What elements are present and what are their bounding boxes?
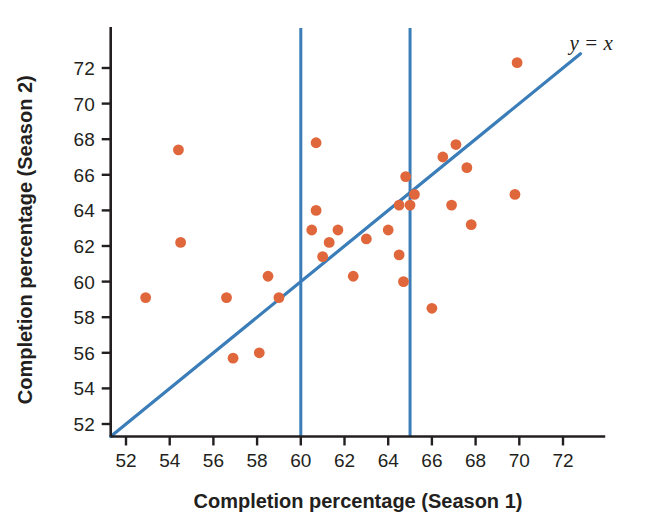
x-tick-label: 70 bbox=[509, 450, 530, 471]
data-point bbox=[405, 200, 416, 211]
data-point bbox=[409, 189, 420, 200]
data-point bbox=[311, 205, 322, 216]
y-tick-label: 62 bbox=[74, 236, 95, 257]
y-tick-label: 68 bbox=[74, 129, 95, 150]
data-point bbox=[333, 225, 344, 236]
data-point bbox=[451, 139, 462, 150]
x-tick-label: 58 bbox=[247, 450, 268, 471]
data-point bbox=[306, 225, 317, 236]
x-axis-title: Completion percentage (Season 1) bbox=[193, 490, 522, 512]
data-point bbox=[437, 152, 448, 163]
y-tick-label: 54 bbox=[74, 378, 96, 399]
data-points-group bbox=[140, 57, 522, 363]
data-point bbox=[510, 189, 521, 200]
data-point bbox=[398, 276, 409, 287]
data-point bbox=[140, 292, 151, 303]
y-axis-title: Completion percentage (Season 2) bbox=[14, 75, 36, 404]
data-point bbox=[427, 303, 438, 314]
y-tick-label: 52 bbox=[74, 414, 95, 435]
plot-canvas: 5254565860626466687072525456586062646668… bbox=[0, 0, 648, 527]
data-point bbox=[254, 347, 265, 358]
data-point bbox=[361, 233, 372, 244]
x-tick-label: 52 bbox=[115, 450, 136, 471]
x-tick-label: 64 bbox=[378, 450, 400, 471]
data-point bbox=[324, 237, 335, 248]
y-tick-label: 60 bbox=[74, 272, 95, 293]
y-tick-label: 56 bbox=[74, 343, 95, 364]
x-tick-label: 72 bbox=[552, 450, 573, 471]
data-point bbox=[383, 225, 394, 236]
identity-line-label: y = x bbox=[568, 31, 614, 55]
data-point bbox=[394, 200, 405, 211]
data-point bbox=[263, 271, 274, 282]
data-point bbox=[175, 237, 186, 248]
data-point bbox=[348, 271, 359, 282]
scatter-plot-figure: 5254565860626466687072525456586062646668… bbox=[0, 0, 648, 527]
data-point bbox=[311, 137, 322, 148]
data-point bbox=[274, 292, 285, 303]
data-point bbox=[317, 251, 328, 262]
y-tick-label: 70 bbox=[74, 94, 95, 115]
y-tick-label: 58 bbox=[74, 307, 95, 328]
data-point bbox=[466, 219, 477, 230]
reference-lines-group bbox=[111, 28, 581, 436]
x-tick-label: 66 bbox=[421, 450, 442, 471]
data-point bbox=[228, 353, 239, 364]
x-tick-label: 62 bbox=[334, 450, 355, 471]
data-point bbox=[394, 250, 405, 261]
data-point bbox=[512, 57, 523, 68]
annotations-group: y = x bbox=[568, 31, 614, 55]
x-tick-label: 56 bbox=[203, 450, 224, 471]
x-tick-label: 60 bbox=[290, 450, 311, 471]
data-point bbox=[221, 292, 232, 303]
y-tick-label: 64 bbox=[74, 200, 96, 221]
y-tick-label: 72 bbox=[74, 58, 95, 79]
x-tick-label: 68 bbox=[465, 450, 486, 471]
data-point bbox=[446, 200, 457, 211]
data-point bbox=[461, 162, 472, 173]
data-point bbox=[173, 144, 184, 155]
y-tick-label: 66 bbox=[74, 165, 95, 186]
x-tick-label: 54 bbox=[159, 450, 181, 471]
data-point bbox=[400, 171, 411, 182]
